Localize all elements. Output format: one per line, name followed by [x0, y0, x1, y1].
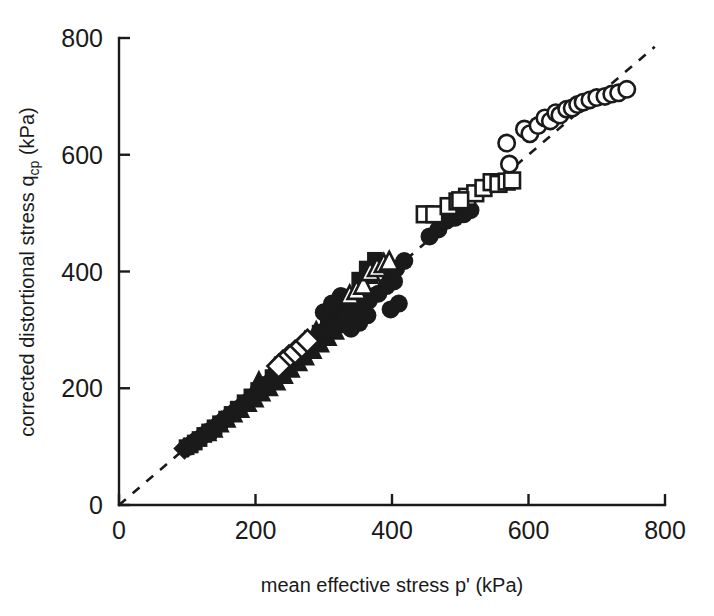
data-point-open-circle: [619, 81, 635, 97]
x-tick-marks: [119, 494, 665, 505]
y-axis-title-part2: (kPa): [16, 107, 38, 160]
x-axis-title: mean effective stress p' (kPa): [261, 574, 523, 596]
x-tick-label: 600: [508, 516, 550, 544]
y-axis-title: corrected distortional stress qcp (kPa): [16, 107, 42, 436]
y-axis-title-subscript: cp: [26, 160, 42, 175]
plot-canvas: 0200400600800 0200400600800 mean effecti…: [0, 0, 714, 616]
data-point-open-square: [504, 173, 520, 189]
x-tick-labels: 0200400600800: [112, 516, 686, 544]
series-open-circle: [498, 81, 635, 172]
y-tick-label: 600: [61, 141, 103, 169]
data-point-open-square: [452, 192, 468, 208]
x-tick-label: 200: [235, 516, 277, 544]
data-point-open-circle: [498, 135, 514, 151]
data-point-filled-circle: [390, 295, 408, 313]
y-tick-label: 0: [89, 491, 103, 519]
series-filled-circle: [303, 201, 479, 349]
y-tick-labels: 0200400600800: [61, 24, 103, 519]
scatter-plot-figure: 0200400600800 0200400600800 mean effecti…: [0, 0, 714, 616]
data-point-filled-circle: [358, 306, 376, 324]
x-tick-label: 800: [644, 516, 686, 544]
svg-text:corrected distortional stress: corrected distortional stress qcp (kPa): [16, 107, 42, 436]
data-markers-group: [173, 81, 635, 459]
x-tick-label: 400: [371, 516, 413, 544]
y-tick-label: 800: [61, 24, 103, 52]
y-axis-title-part1: corrected distortional stress q: [16, 175, 38, 436]
y-tick-marks: [119, 38, 130, 505]
data-point-open-circle: [501, 156, 517, 172]
y-tick-label: 200: [61, 374, 103, 402]
x-tick-label: 0: [112, 516, 126, 544]
y-tick-label: 400: [61, 258, 103, 286]
